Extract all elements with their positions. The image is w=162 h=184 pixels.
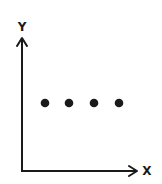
scatter-diagram: Y X	[0, 0, 162, 184]
y-axis: Y	[17, 20, 27, 171]
data-points	[41, 99, 124, 108]
data-point	[115, 99, 124, 108]
x-axis: X	[21, 164, 152, 178]
x-axis-label: X	[142, 164, 152, 178]
data-point	[65, 99, 74, 108]
y-axis-label: Y	[17, 20, 27, 34]
data-point	[41, 99, 50, 108]
data-point	[90, 99, 99, 108]
